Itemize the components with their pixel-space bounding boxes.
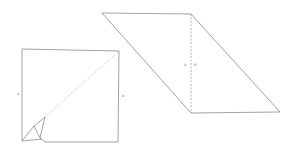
height-label-left: a bbox=[184, 62, 187, 67]
square-right-label: a bbox=[122, 93, 125, 98]
height-label-right: b bbox=[194, 62, 197, 67]
folded-corner bbox=[22, 117, 45, 141]
square-shape bbox=[22, 49, 119, 142]
geometry-diagram: a a a b bbox=[0, 0, 292, 152]
square-diagonal bbox=[45, 51, 119, 117]
square-left-label: a bbox=[17, 91, 20, 96]
square-outline bbox=[22, 49, 119, 142]
